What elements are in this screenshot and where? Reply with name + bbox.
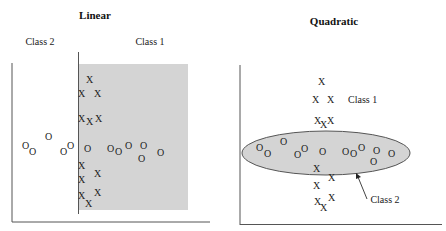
x-marker: X bbox=[328, 172, 336, 183]
o-marker: O bbox=[157, 147, 164, 158]
class2-arrow-line bbox=[358, 177, 367, 199]
x-marker: X bbox=[85, 198, 93, 209]
x-marker: X bbox=[95, 113, 103, 124]
x-marker: X bbox=[86, 74, 94, 85]
x-marker: X bbox=[312, 94, 320, 105]
o-marker: O bbox=[138, 153, 145, 164]
x-marker: X bbox=[78, 160, 86, 171]
o-marker: O bbox=[388, 148, 395, 159]
linear-panel: Linear Class 2 Class 1 X X X X X X X X X… bbox=[12, 9, 210, 222]
o-marker: O bbox=[350, 148, 357, 159]
linear-title: Linear bbox=[79, 9, 111, 21]
o-marker: O bbox=[45, 131, 52, 142]
o-marker: O bbox=[29, 146, 36, 157]
x-marker: X bbox=[327, 115, 335, 126]
x-marker: X bbox=[318, 76, 326, 87]
o-marker: O bbox=[140, 140, 147, 151]
o-marker: O bbox=[264, 148, 271, 159]
x-marker: X bbox=[320, 202, 328, 213]
x-marker: X bbox=[86, 116, 94, 127]
o-marker: O bbox=[125, 140, 132, 151]
o-marker: O bbox=[67, 140, 74, 151]
o-marker: O bbox=[107, 143, 114, 154]
quadratic-class2-label: Class 2 bbox=[370, 194, 399, 205]
x-marker: X bbox=[78, 88, 86, 99]
x-marker: X bbox=[94, 168, 102, 179]
quadratic-title: Quadratic bbox=[310, 15, 358, 27]
classification-diagram: Linear Class 2 Class 1 X X X X X X X X X… bbox=[0, 0, 446, 231]
o-marker: O bbox=[370, 156, 377, 167]
quadratic-class1-label: Class 1 bbox=[348, 94, 377, 105]
o-marker: O bbox=[280, 136, 287, 147]
quadratic-panel: Quadratic Class 2 Class 1 X X X X X X X … bbox=[240, 15, 442, 225]
x-marker: X bbox=[327, 94, 335, 105]
x-marker: X bbox=[78, 174, 86, 185]
x-marker: X bbox=[328, 192, 336, 203]
o-marker: O bbox=[342, 146, 349, 157]
o-marker: O bbox=[358, 142, 365, 153]
x-marker: X bbox=[313, 180, 321, 191]
x-marker: X bbox=[313, 163, 321, 174]
o-marker: O bbox=[256, 142, 263, 153]
linear-class2-label: Class 2 bbox=[25, 36, 54, 47]
o-marker: O bbox=[319, 146, 326, 157]
x-marker: X bbox=[94, 88, 102, 99]
o-marker: O bbox=[301, 143, 308, 154]
o-marker: O bbox=[115, 146, 122, 157]
x-marker: X bbox=[78, 113, 86, 124]
o-marker: O bbox=[373, 145, 380, 156]
linear-class1-label: Class 1 bbox=[135, 36, 164, 47]
x-marker: X bbox=[94, 187, 102, 198]
o-marker: O bbox=[84, 143, 91, 154]
